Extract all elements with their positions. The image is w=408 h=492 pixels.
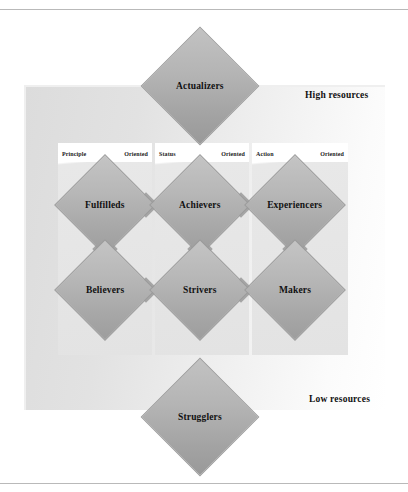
segment-label-actualizers: Actualizers [176,81,224,91]
orientation-right-word-principle: Oriented [124,151,148,157]
low-resources-label: Low resources [309,394,370,404]
segment-label-strivers: Strivers [183,285,216,295]
segment-label-strugglers: Strugglers [178,412,222,422]
segment-label-experiencers: Experiencers [267,200,322,210]
high-resources-label: High resources [305,90,368,100]
orientation-right-word-action: Oriented [320,151,344,157]
orientation-right-word-status: Oriented [221,151,245,157]
segment-label-makers: Makers [279,285,311,295]
orientation-left-word-action: Action [256,151,274,157]
segment-label-believers: Believers [86,285,124,295]
orientation-left-word-status: Status [159,151,176,157]
orientation-left-word-principle: Principle [62,151,86,157]
segment-label-achievers: Achievers [179,200,220,210]
vals-framework-diagram: Principle Oriented Status Oriented Actio… [0,0,408,492]
segment-label-fulfilleds: Fulfilleds [85,200,125,210]
